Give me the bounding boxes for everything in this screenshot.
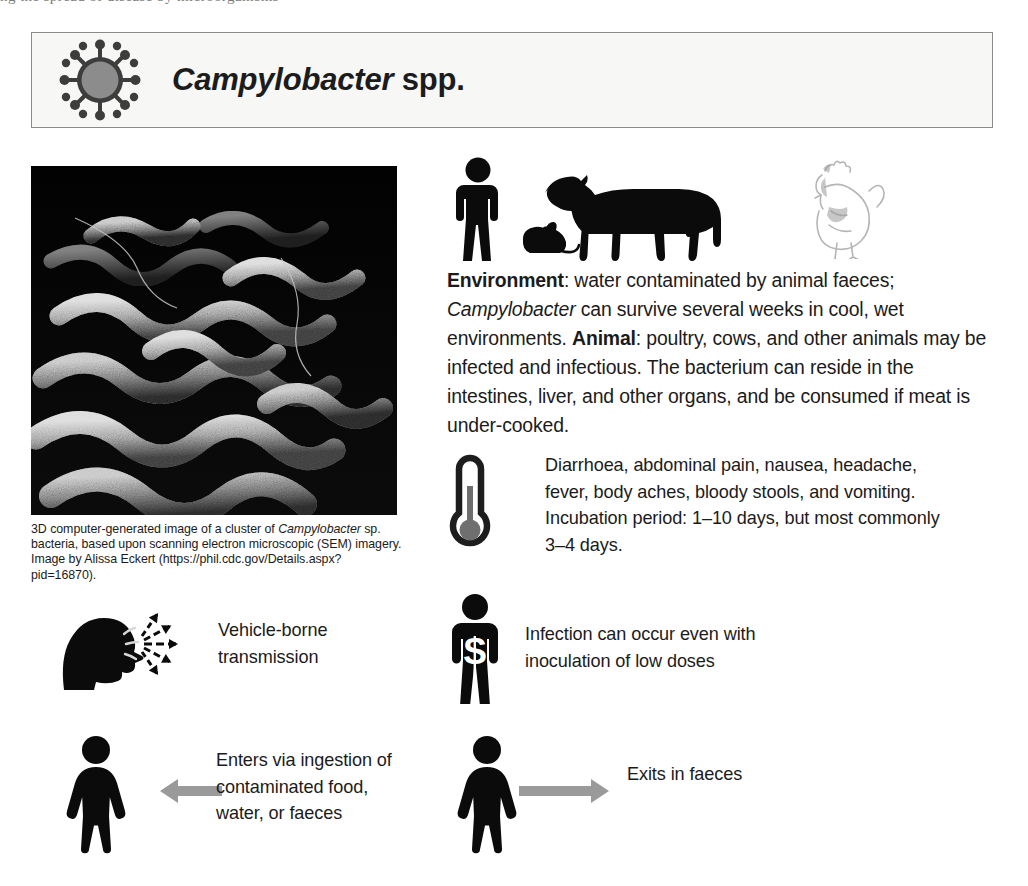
dose-section: S Infection can occur even with inoculat… xyxy=(447,592,917,704)
person-with-s-torso-icon: S xyxy=(447,592,503,704)
campylobacter-sem-image xyxy=(31,166,397,515)
environment-label: Environment xyxy=(447,269,564,291)
exit-text: Exits in faeces xyxy=(627,761,867,788)
page-title: Campylobacter spp. xyxy=(172,62,465,98)
transmission-line-2: transmission xyxy=(218,644,327,671)
pathogen-italic-inline: Campylobacter xyxy=(447,298,575,320)
figure-caption: 3D computer-generated image of a cluster… xyxy=(31,522,403,583)
pathogen-name-italic: Campylobacter xyxy=(172,62,393,97)
infographic-page: ng the spread of disease by microorganis… xyxy=(0,0,1028,886)
transmission-text: Vehicle-borne transmission xyxy=(218,617,327,670)
entry-line-3: water, or faeces xyxy=(216,800,466,827)
dose-line-2: inoculation of low doses xyxy=(525,648,755,675)
entry-line-2: contaminated food, xyxy=(216,774,466,801)
transmission-line-1: Vehicle-borne xyxy=(218,617,327,644)
virus-particle-icon xyxy=(58,38,142,122)
arrow-left-icon xyxy=(160,778,222,804)
sem-figure: 3D computer-generated image of a cluster… xyxy=(31,166,397,583)
clipped-header-text: ng the spread of disease by microorganis… xyxy=(0,0,1028,4)
environment-text-1: : water contaminated by animal faeces; xyxy=(564,269,895,291)
reservoir-section: Environment: water contaminated by anima… xyxy=(447,153,1007,261)
female-figure-icon xyxy=(56,734,136,854)
person-cow-mouse-silhouette-icon xyxy=(447,153,747,261)
reservoir-text: Environment: water contaminated by anima… xyxy=(447,266,1003,440)
thermometer-icon xyxy=(447,452,493,558)
coughing-head-with-dashed-arrows-icon xyxy=(52,596,202,692)
dose-text: Infection can occur even with inoculatio… xyxy=(525,621,755,674)
transmission-section: Vehicle-borne transmission xyxy=(52,596,432,692)
arrow-right-icon xyxy=(519,778,609,804)
entry-text: Enters via ingestion of contaminated foo… xyxy=(216,747,466,827)
female-figure-icon xyxy=(447,734,527,854)
entry-line-1: Enters via ingestion of xyxy=(216,747,466,774)
caption-italic-name: Campylobacter xyxy=(278,522,361,536)
animal-label: Animal xyxy=(572,327,636,349)
pathogen-name-spp: spp. xyxy=(393,62,464,97)
pathogen-header-banner: Campylobacter spp. xyxy=(31,32,993,128)
symptoms-section: Diarrhoea, abdominal pain, nausea, heada… xyxy=(447,452,1007,558)
dose-line-1: Infection can occur even with xyxy=(525,621,755,648)
chicken-line-drawing-icon xyxy=(795,151,891,259)
caption-part-1: 3D computer-generated image of a cluster… xyxy=(31,522,278,536)
symptoms-text: Diarrhoea, abdominal pain, nausea, heada… xyxy=(545,452,945,558)
